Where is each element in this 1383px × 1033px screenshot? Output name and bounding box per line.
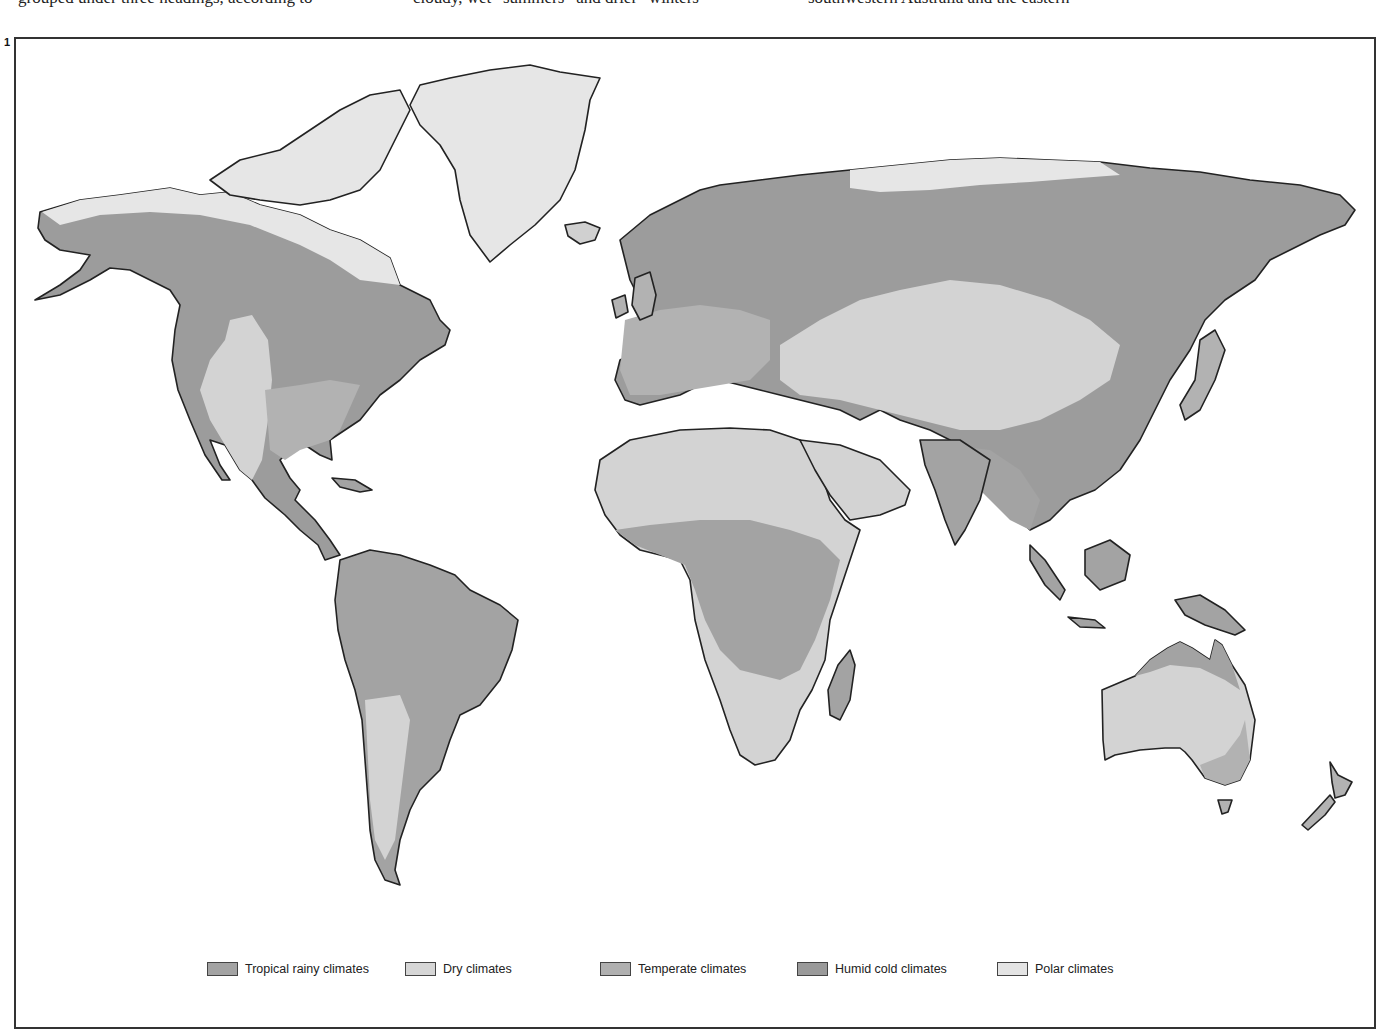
africa-tropical: [615, 520, 840, 680]
iceland: [565, 222, 600, 244]
great-britain: [632, 272, 656, 320]
legend-tropical: Tropical rainy climates: [207, 962, 369, 976]
new-guinea: [1175, 595, 1245, 635]
legend-label-tropical: Tropical rainy climates: [245, 962, 369, 976]
cuba: [332, 478, 372, 492]
legend-humid-cold: Humid cold climates: [797, 962, 947, 976]
legend-swatch-humid-cold: [797, 962, 828, 976]
tasmania: [1218, 800, 1232, 814]
legend-label-temperate: Temperate climates: [638, 962, 746, 976]
legend-label-dry: Dry climates: [443, 962, 512, 976]
legend-polar: Polar climates: [997, 962, 1114, 976]
india: [920, 440, 990, 545]
new-zealand-south: [1302, 795, 1335, 830]
south-america: [335, 550, 518, 885]
legend-swatch-temperate: [600, 962, 631, 976]
legend-swatch-dry: [405, 962, 436, 976]
indonesia-borneo: [1085, 540, 1130, 590]
legend-label-polar: Polar climates: [1035, 962, 1114, 976]
arctic-islands: [210, 90, 410, 205]
new-zealand-north: [1330, 762, 1352, 798]
java: [1068, 617, 1105, 628]
legend-swatch-polar: [997, 962, 1028, 976]
legend-temperate: Temperate climates: [600, 962, 746, 976]
legend-dry: Dry climates: [405, 962, 512, 976]
madagascar: [828, 650, 855, 720]
legend-swatch-tropical: [207, 962, 238, 976]
world-climate-map: [0, 0, 1383, 1033]
ireland: [612, 295, 628, 318]
legend-label-humid-cold: Humid cold climates: [835, 962, 947, 976]
indonesia-sumatra: [1030, 545, 1065, 600]
